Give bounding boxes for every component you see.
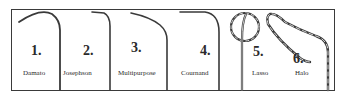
- item-2-number: 2.: [83, 43, 94, 59]
- item-3-number: 3.: [131, 40, 142, 56]
- item-1-label: Damato: [23, 69, 45, 77]
- item-4-number: 4.: [200, 43, 211, 59]
- item-6-label: Halo: [295, 69, 309, 77]
- item-3-label: Multipurpose: [118, 69, 156, 77]
- item-5-label: Lasso: [252, 69, 268, 77]
- item-2-label: Josephson: [63, 69, 92, 77]
- item-1-number: 1.: [31, 43, 42, 59]
- item-6-number: 6.: [293, 51, 304, 67]
- josephson-catheter-icon: [92, 12, 110, 90]
- item-5-number: 5.: [253, 44, 264, 60]
- catheter-shapes: [0, 0, 359, 100]
- item-4-label: Cournand: [181, 69, 209, 77]
